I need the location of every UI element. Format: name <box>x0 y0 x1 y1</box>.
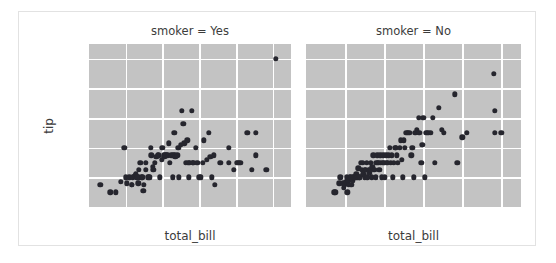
scatter-point <box>245 130 250 135</box>
scatter-point <box>113 189 118 194</box>
scatter-point <box>141 182 146 187</box>
scatter-point <box>212 182 217 187</box>
scatter-point <box>166 141 171 146</box>
y-axis-label: tip <box>41 44 57 207</box>
plot-area-smoker-no: 1020304050 <box>306 44 521 207</box>
scatter-point <box>167 160 172 165</box>
gridline-vertical <box>423 44 425 207</box>
scatter-point <box>160 145 165 150</box>
scatter-point <box>170 175 175 180</box>
scatter-point <box>399 157 404 162</box>
scatter-point <box>148 145 153 150</box>
scatter-point <box>253 130 258 135</box>
scatter-point <box>464 130 469 135</box>
gridline-vertical <box>462 44 464 207</box>
scatter-point <box>218 160 223 165</box>
scatter-point <box>209 175 214 180</box>
scatter-point <box>201 138 206 143</box>
scatter-point <box>189 108 194 113</box>
scatter-point <box>402 145 407 150</box>
gridline-horizontal <box>306 59 521 61</box>
scatter-point <box>176 175 181 180</box>
scatter-point <box>432 160 437 165</box>
gridline-vertical <box>501 44 503 207</box>
scatter-point <box>333 189 338 194</box>
scatter-point <box>422 175 427 180</box>
scatter-point <box>143 160 148 165</box>
scatter-point <box>185 138 190 143</box>
gridline-vertical <box>162 44 164 207</box>
scatter-point <box>264 167 269 172</box>
x-axis-label-right: total_bill <box>306 229 521 243</box>
scatter-point <box>136 181 141 186</box>
scatter-point <box>136 167 141 172</box>
scatter-point <box>338 175 343 180</box>
scatter-point <box>152 160 157 165</box>
facet-panel-smoker-no: smoker = No 1020304050 total_bill <box>306 44 521 207</box>
scatter-point <box>421 115 426 120</box>
gridline-horizontal <box>89 148 291 150</box>
gridline-horizontal <box>89 118 291 120</box>
scatter-point <box>382 175 387 180</box>
scatter-point <box>401 138 406 143</box>
gridline-vertical <box>273 44 275 207</box>
scatter-point <box>157 175 162 180</box>
gridline-horizontal <box>89 59 291 61</box>
scatter-point <box>377 167 382 172</box>
scatter-point <box>193 145 198 150</box>
scatter-point <box>492 108 497 113</box>
plot-area-smoker-yes: 1020304050246810 <box>89 44 291 207</box>
scatter-point <box>400 175 405 180</box>
scatter-point <box>441 130 446 135</box>
scatter-point <box>174 152 179 157</box>
figure-container: tip smoker = Yes 1020304050246810 total_… <box>18 11 536 246</box>
scatter-point <box>492 130 497 135</box>
scatter-point <box>408 152 413 157</box>
gridline-vertical <box>236 44 238 207</box>
scatter-point <box>460 135 465 140</box>
scatter-point <box>417 130 422 135</box>
scatter-point <box>172 130 177 135</box>
caption-strip <box>18 256 536 263</box>
gridline-horizontal <box>306 88 521 90</box>
scatter-point <box>430 115 435 120</box>
scatter-point <box>226 145 231 150</box>
gridline-horizontal <box>306 118 521 120</box>
scatter-point <box>143 167 148 172</box>
scatter-point <box>179 108 184 113</box>
facet-panel-smoker-yes: smoker = Yes 1020304050246810 total_bill <box>89 44 291 207</box>
scatter-point <box>147 175 152 180</box>
scatter-point <box>206 130 211 135</box>
scatter-point <box>411 175 416 180</box>
scatter-point <box>129 182 134 187</box>
scatter-point <box>198 175 203 180</box>
scatter-point <box>186 175 191 180</box>
scatter-point <box>455 160 460 165</box>
scatter-point <box>273 56 278 61</box>
x-axis-label-left: total_bill <box>89 229 291 243</box>
scatter-point <box>98 182 103 187</box>
scatter-point <box>211 152 216 157</box>
scatter-point <box>452 92 457 97</box>
scatter-point <box>390 175 395 180</box>
scatter-point <box>410 145 415 150</box>
scatter-point <box>181 121 186 126</box>
facet-title-smoker-no: smoker = No <box>306 24 521 38</box>
scatter-point <box>141 188 146 193</box>
scatter-point <box>151 167 156 172</box>
gridline-horizontal <box>89 88 291 90</box>
scatter-point <box>345 189 350 194</box>
scatter-point <box>249 167 254 172</box>
scatter-point <box>406 130 411 135</box>
scatter-point <box>428 130 433 135</box>
scatter-point <box>238 160 243 165</box>
scatter-point <box>226 160 231 165</box>
scatter-point <box>253 152 258 157</box>
scatter-point <box>349 182 354 187</box>
gridline-vertical <box>384 44 386 207</box>
scatter-point <box>373 175 378 180</box>
scatter-point <box>499 130 504 135</box>
gridline-vertical <box>199 44 201 207</box>
facet-title-smoker-yes: smoker = Yes <box>89 24 291 38</box>
scatter-point <box>491 71 496 76</box>
